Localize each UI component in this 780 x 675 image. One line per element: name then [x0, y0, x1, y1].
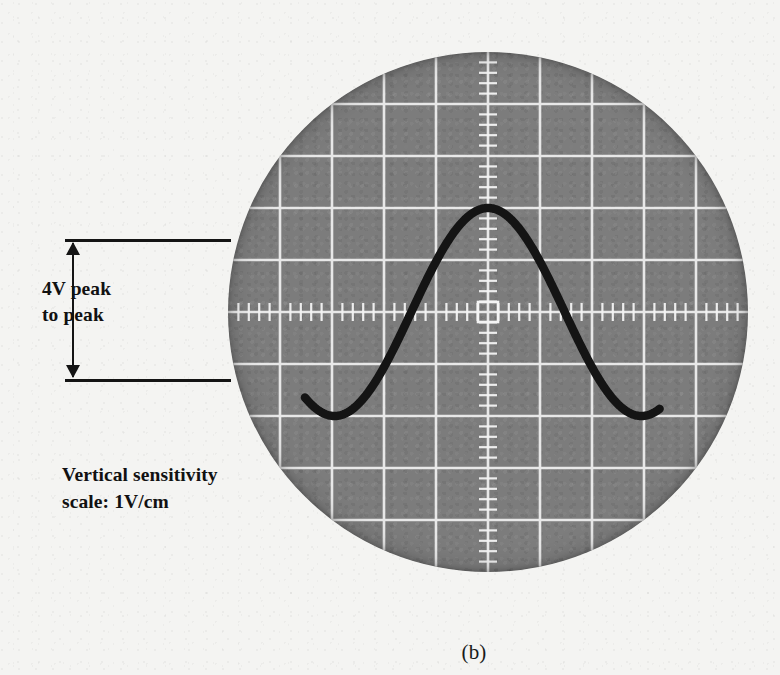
peak-to-peak-label-line1: 4V peak	[42, 276, 222, 302]
sine-trace	[305, 208, 660, 416]
peak-to-peak-label: 4V peak to peak	[42, 276, 222, 327]
arrow-down-icon	[66, 365, 80, 378]
oscilloscope-figure: 4V peak to peak Vertical sensitivity sca…	[0, 0, 780, 675]
vertical-sensitivity-label: Vertical sensitivity scale: 1V/cm	[62, 462, 312, 515]
figure-caption: (b)	[0, 640, 780, 665]
peak-to-peak-bottom-rule	[65, 379, 231, 382]
peak-to-peak-top-rule	[65, 239, 231, 242]
peak-to-peak-label-line2: to peak	[42, 302, 222, 328]
vertical-sensitivity-line2: scale: 1V/cm	[62, 489, 312, 516]
arrow-up-icon	[66, 242, 80, 255]
figure-caption-text: (b)	[461, 640, 486, 664]
vertical-sensitivity-line1: Vertical sensitivity	[62, 462, 312, 489]
